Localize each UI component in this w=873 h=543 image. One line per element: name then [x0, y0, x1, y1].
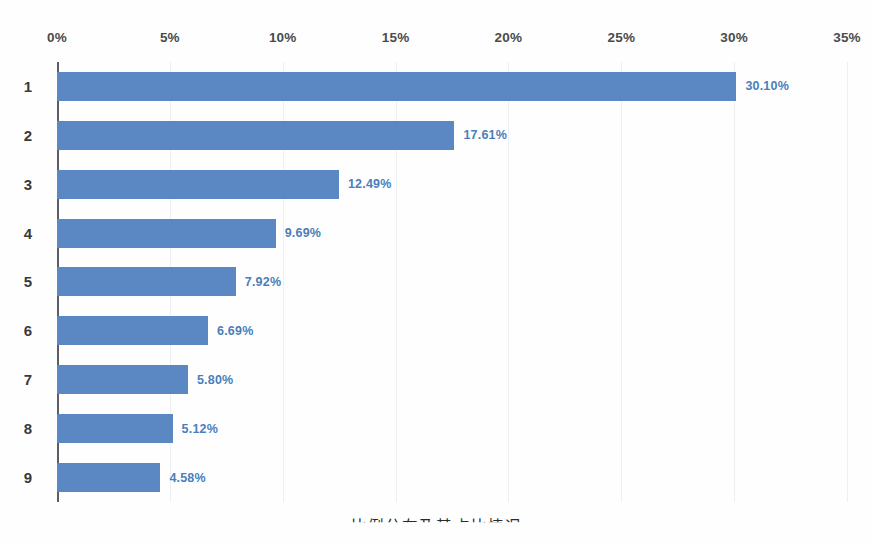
- figure-caption-text: 比例分布及其占比情况: [351, 517, 523, 536]
- x-tick-label: 10%: [269, 30, 297, 45]
- category-label: 7: [0, 355, 50, 404]
- bar-value-label: 7.92%: [245, 275, 281, 289]
- x-tick-label: 20%: [495, 30, 523, 45]
- category-label: 1: [0, 62, 50, 111]
- bar-value-label: 17.61%: [463, 128, 507, 142]
- bar-row: 94.58%: [0, 453, 873, 502]
- x-tick-label: 15%: [382, 30, 410, 45]
- x-tick-label: 35%: [833, 30, 861, 45]
- category-label: 6: [0, 306, 50, 355]
- bar[interactable]: [57, 365, 188, 394]
- bar-container: 17.61%: [57, 111, 873, 160]
- chart-page: 0%5%10%15%20%25%30%35% 130.10%217.61%312…: [0, 0, 873, 543]
- x-tick-label: 25%: [607, 30, 635, 45]
- bar[interactable]: [57, 72, 736, 101]
- x-axis: 0%5%10%15%20%25%30%35%: [0, 30, 873, 52]
- bar-value-label: 5.12%: [182, 422, 218, 436]
- bar[interactable]: [57, 121, 454, 150]
- bar-value-label: 6.69%: [217, 324, 253, 338]
- bar-row: 57.92%: [0, 258, 873, 307]
- bar[interactable]: [57, 170, 339, 199]
- bar-rows: 130.10%217.61%312.49%49.69%57.92%66.69%7…: [0, 62, 873, 502]
- bar-chart: 0%5%10%15%20%25%30%35% 130.10%217.61%312…: [0, 0, 873, 512]
- bar-container: 5.12%: [57, 404, 873, 453]
- bar-value-label: 4.58%: [169, 471, 205, 485]
- figure-caption: 比例分布及其占比情况: [0, 517, 873, 543]
- bar[interactable]: [57, 219, 276, 248]
- bar-value-label: 12.49%: [348, 177, 392, 191]
- x-tick-label: 30%: [720, 30, 748, 45]
- category-label: 9: [0, 453, 50, 502]
- category-label: 4: [0, 209, 50, 258]
- bar-container: 6.69%: [57, 306, 873, 355]
- bar-container: 12.49%: [57, 160, 873, 209]
- bar[interactable]: [57, 316, 208, 345]
- bar-row: 49.69%: [0, 209, 873, 258]
- bar[interactable]: [57, 414, 173, 443]
- bar-row: 75.80%: [0, 355, 873, 404]
- x-tick-label: 0%: [47, 30, 67, 45]
- bar-row: 217.61%: [0, 111, 873, 160]
- bar[interactable]: [57, 267, 236, 296]
- bar-container: 30.10%: [57, 62, 873, 111]
- bar-container: 5.80%: [57, 355, 873, 404]
- bar-container: 4.58%: [57, 453, 873, 502]
- bar-container: 7.92%: [57, 258, 873, 307]
- bar-value-label: 9.69%: [285, 226, 321, 240]
- bar-row: 85.12%: [0, 404, 873, 453]
- x-tick-label: 5%: [160, 30, 180, 45]
- bar-row: 66.69%: [0, 306, 873, 355]
- bar-value-label: 5.80%: [197, 373, 233, 387]
- category-label: 8: [0, 404, 50, 453]
- category-label: 3: [0, 160, 50, 209]
- bar-value-label: 30.10%: [745, 79, 789, 93]
- bar-row: 312.49%: [0, 160, 873, 209]
- category-label: 2: [0, 111, 50, 160]
- bar-container: 9.69%: [57, 209, 873, 258]
- bar-row: 130.10%: [0, 62, 873, 111]
- category-label: 5: [0, 258, 50, 307]
- bar[interactable]: [57, 463, 160, 492]
